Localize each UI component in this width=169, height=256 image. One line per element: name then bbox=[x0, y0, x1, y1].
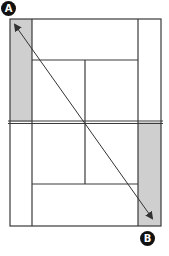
tennis-court-diagram bbox=[0, 0, 169, 256]
bottom-right-alley-shading bbox=[138, 122, 161, 226]
top-left-alley-shading bbox=[10, 19, 32, 122]
label-a-badge: A bbox=[1, 1, 16, 16]
label-b-badge: B bbox=[140, 231, 155, 246]
